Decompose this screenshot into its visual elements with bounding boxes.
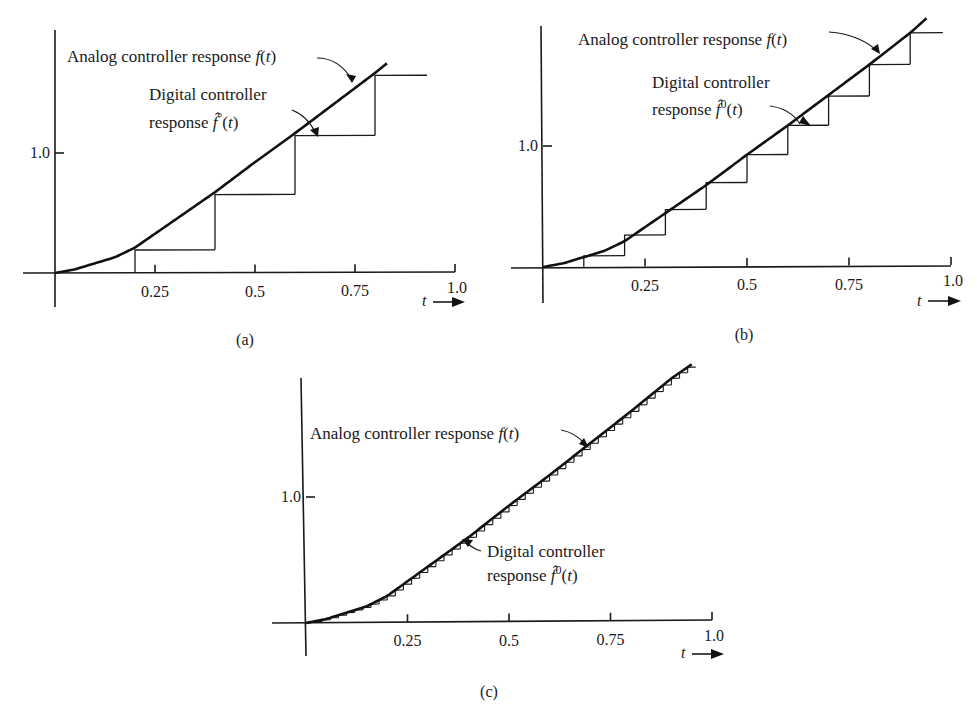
x-tick-label: 1.0 <box>943 272 963 289</box>
analog-leader-arrow <box>317 58 352 80</box>
digital-step <box>550 475 558 481</box>
digital-step <box>655 392 663 399</box>
y-tick-label: 1.0 <box>30 144 50 161</box>
digital-step <box>452 549 460 555</box>
digital-step <box>829 96 870 125</box>
digital-step <box>525 493 533 499</box>
panel-c: 0.250.50.751.0 1.0 Analog controller res… <box>272 364 724 701</box>
panel-label: (a) <box>236 331 254 349</box>
digital-step <box>215 194 295 249</box>
t-axis-label: t <box>681 644 686 661</box>
x-tick-label: 0.5 <box>737 276 757 293</box>
digital-step <box>395 590 403 596</box>
digital-step <box>631 411 639 417</box>
digital-step <box>558 469 566 475</box>
analog-arrowhead-icon <box>346 74 356 83</box>
t-axis-arrowhead-icon <box>711 649 724 659</box>
plot-marks <box>543 18 943 267</box>
digital-step <box>680 373 688 379</box>
x-tick-label: 0.5 <box>245 283 265 300</box>
figure-canvas: 0.250.50.751.0 1.0 Analog controller res… <box>0 0 977 725</box>
digital-step <box>671 378 679 385</box>
analog-label: Analog controller response f(t) <box>67 47 276 66</box>
x-ticks: 0.250.50.751.0 <box>631 257 963 294</box>
digital-step <box>517 499 525 505</box>
digital-arrowhead-icon <box>799 116 811 126</box>
y-tick-label: 1.0 <box>518 137 538 154</box>
digital-step <box>295 135 375 194</box>
digital-step <box>639 405 647 412</box>
digital-step <box>663 385 671 392</box>
digital-label-line2: response f̂0(t) <box>487 563 578 585</box>
digital-step <box>590 443 598 449</box>
analog-label: Analog controller response f(t) <box>578 30 787 49</box>
y-ticks: 1.0 <box>518 137 552 154</box>
x-tick-label: 1.0 <box>704 627 724 644</box>
digital-step <box>135 250 215 273</box>
panel-label: (b) <box>735 326 754 344</box>
digital-step <box>910 33 943 65</box>
t-axis-label: t <box>422 292 427 309</box>
digital-step <box>485 525 493 531</box>
digital-step <box>375 75 427 135</box>
x-tick-label: 0.75 <box>597 631 625 648</box>
digital-step <box>403 584 411 590</box>
digital-step <box>566 462 574 468</box>
digital-step <box>598 437 606 443</box>
digital-step <box>747 154 788 182</box>
digital-step <box>412 578 420 584</box>
x-tick-label: 0.5 <box>499 632 519 649</box>
digital-step <box>647 398 655 405</box>
y-axis <box>541 26 543 303</box>
digital-step <box>615 424 623 430</box>
y-ticks: 1.0 <box>30 144 64 161</box>
digital-step <box>541 481 549 487</box>
x-tick-label: 0.75 <box>835 276 863 293</box>
digital-step <box>501 512 509 518</box>
x-ticks: 0.250.50.751.0 <box>141 264 467 300</box>
x-tick-label: 0.25 <box>394 632 422 649</box>
x-tick-label: 0.25 <box>141 283 169 300</box>
digital-step <box>533 487 541 493</box>
digital-label-line1: Digital controller <box>652 73 770 92</box>
digital-step <box>574 456 582 462</box>
panel-label: (c) <box>480 683 498 701</box>
x-tick-label: 1.0 <box>447 279 467 296</box>
digital-step <box>584 256 625 267</box>
analog-leader-arrow <box>829 32 877 51</box>
y-ticks: 1.0 <box>281 488 315 505</box>
digital-step <box>509 506 517 512</box>
y-tick-label: 1.0 <box>281 488 301 505</box>
digital-step <box>582 450 590 456</box>
digital-step <box>665 209 706 235</box>
digital-step <box>420 572 428 578</box>
x-tick-label: 0.25 <box>631 277 659 294</box>
panel-a: 0.250.50.751.0 1.0 Analog controller res… <box>23 30 467 349</box>
y-axis <box>301 378 306 656</box>
digital-step <box>444 555 452 561</box>
digital-label-line1: Digital controller <box>487 542 605 561</box>
digital-step <box>706 183 747 210</box>
x-ticks: 0.250.50.751.0 <box>394 612 725 649</box>
t-axis-arrowhead-icon <box>948 296 961 306</box>
digital-step <box>436 561 444 567</box>
x-axis <box>511 266 951 268</box>
analog-label: Analog controller response f(t) <box>310 424 519 443</box>
digital-step <box>869 64 910 96</box>
digital-step <box>623 418 631 424</box>
digital-label-line2: response f̂0(t) <box>652 97 743 119</box>
t-axis-arrowhead-icon <box>452 297 465 307</box>
digital-step <box>788 125 829 154</box>
digital-step <box>688 367 696 373</box>
analog-arrowhead-icon <box>871 44 880 54</box>
digital-label-line1: Digital controller <box>149 85 267 104</box>
digital-step <box>493 518 501 524</box>
analog-curve <box>543 18 927 267</box>
x-axis <box>23 272 455 273</box>
digital-step <box>606 430 614 436</box>
x-axis <box>272 620 712 623</box>
digital-step <box>477 531 485 537</box>
x-tick-label: 0.75 <box>341 282 369 299</box>
panel-b: 0.250.50.751.0 1.0 Analog controller res… <box>511 18 963 344</box>
digital-label-line2: response f̂°(t) <box>149 110 238 132</box>
